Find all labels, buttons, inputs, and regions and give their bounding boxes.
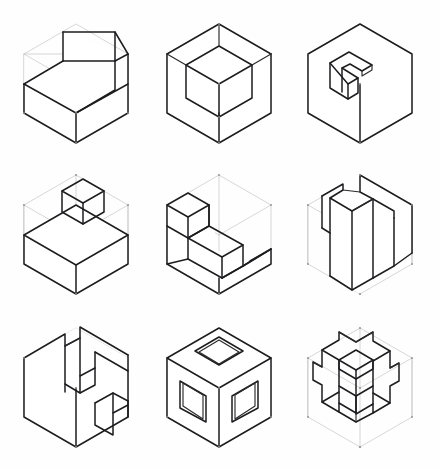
figure-two-step-corner-cut-cube [23, 24, 129, 144]
sketch-canvas: Isometric Cube Subtraction Studies [0, 0, 439, 468]
drawing-sheet: Isometric Cube Subtraction Studies [0, 0, 439, 468]
figure-three-tier-staircase-cube [167, 174, 272, 295]
solid-outline [322, 174, 412, 294]
solid-outline [24, 327, 128, 447]
figure-top-channel-and-side-notch-cube [23, 327, 128, 448]
figure-c-channel-slot-cube [308, 24, 412, 144]
solid-outline [24, 32, 128, 143]
figure-interlocking-vertical-walls-cube [307, 174, 413, 295]
solid-outline [313, 332, 399, 422]
figure-block-with-small-cube-on-top [23, 174, 129, 295]
figure-open-top-cavity-cube [167, 23, 271, 144]
figure-cross-notched-cube [307, 327, 413, 448]
figure-pierced-faces-cube [166, 328, 272, 448]
